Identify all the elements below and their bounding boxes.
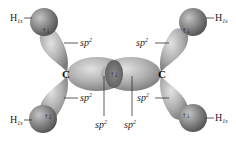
- sp2-label-upper-left: sp2: [80, 37, 92, 48]
- h1s-label-bottom-left: H1s: [10, 114, 23, 126]
- carbon-label-right: C: [158, 68, 166, 80]
- h1s-label-top-right: H1s: [215, 12, 228, 24]
- sp2-label-upper-right: sp2: [136, 37, 148, 48]
- sp2-label-lower-right: sp2: [137, 92, 149, 103]
- sp2-label-center-right: sp2: [124, 119, 136, 130]
- ethylene-orbital-diagram: ↑↓ ↑↓ ↑↓ ↑↓ ↑↓ C C H1s H1s H1s H1s sp2 s…: [0, 0, 236, 141]
- h1s-label-bottom-right: H1s: [215, 112, 228, 124]
- sp2-label-center-left: sp2: [95, 119, 107, 130]
- hydrogen-sphere-bottom-left: [29, 105, 57, 133]
- carbon-label-left: C: [62, 68, 70, 80]
- electron-pair-top-left: ↑↓: [42, 26, 50, 35]
- electron-pair-top-right: ↑↓: [182, 26, 190, 35]
- electron-pair-bottom-right: ↑↓: [182, 111, 190, 120]
- electron-pair-bottom-left: ↑↓: [44, 112, 52, 121]
- electron-pair-center: ↑↓: [110, 70, 118, 79]
- sp2-label-lower-left: sp2: [80, 92, 92, 103]
- h1s-label-top-left: H1s: [10, 12, 23, 24]
